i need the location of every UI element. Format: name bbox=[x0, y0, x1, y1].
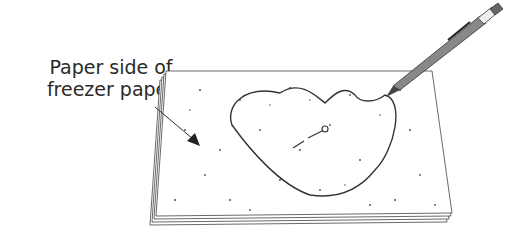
paper-stack bbox=[150, 71, 452, 225]
illustration-svg bbox=[0, 0, 532, 235]
top-sheet bbox=[156, 71, 452, 216]
mechanical-pencil bbox=[386, 3, 503, 97]
freezer-paper-illustration: Paper side of freezer paper bbox=[0, 0, 532, 235]
pencil-body bbox=[393, 16, 486, 90]
